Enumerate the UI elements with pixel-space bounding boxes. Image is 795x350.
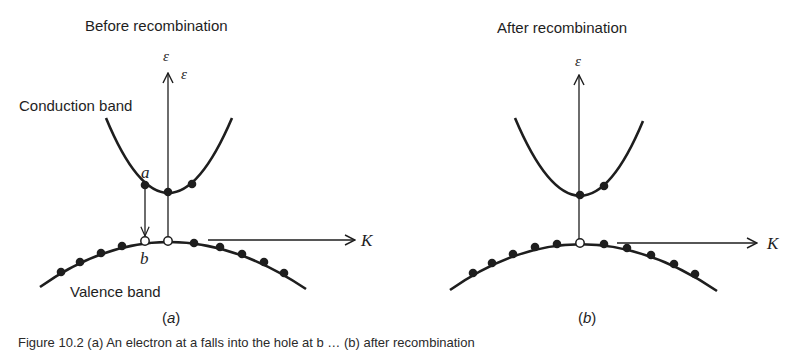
- energy-axis-label-a: ε: [163, 49, 169, 64]
- point-b-label: b: [140, 250, 149, 267]
- valence-band-curve-b: [450, 244, 717, 291]
- electron-dot: [260, 258, 269, 267]
- electron-dot: [238, 250, 247, 259]
- hole-circle: [141, 237, 149, 245]
- electron-dot: [188, 180, 197, 189]
- panel-b-title: After recombination: [497, 20, 627, 35]
- conduction-band-label: Conduction band: [19, 98, 132, 113]
- panel-a-title: Before recombination: [85, 18, 228, 33]
- panel-a-sublabel: (a): [162, 310, 180, 325]
- conduction-band-curve-a: [106, 118, 232, 193]
- electron-dot: [531, 243, 540, 252]
- valence-band-label: Valence band: [70, 284, 161, 299]
- energy-axis-label-b: ε: [575, 54, 581, 69]
- electron-dot: [647, 251, 656, 260]
- electron-dot: [76, 258, 85, 267]
- energy-axis-label-a-secondary: ε: [181, 67, 187, 82]
- electron-dot: [57, 268, 66, 277]
- electron-dot: [469, 269, 478, 278]
- electron-dot: [670, 260, 679, 269]
- k-axis-label-b: K: [767, 235, 778, 252]
- electron-dot: [576, 191, 585, 200]
- panel-b-sublabel: (b): [578, 310, 596, 325]
- electron-dot: [216, 243, 225, 252]
- electron-dot: [488, 259, 497, 268]
- electron-dot: [691, 270, 700, 279]
- panel-b: [450, 75, 757, 291]
- electron-dot: [553, 240, 562, 249]
- point-a-label: a: [141, 164, 150, 181]
- k-axis-label-a: K: [361, 232, 372, 249]
- electron-dot: [280, 269, 289, 278]
- electron-dot: [118, 242, 127, 251]
- hole-circle: [576, 239, 584, 247]
- electron-dot: [509, 250, 518, 259]
- figure-caption: Figure 10.2 (a) An electron at a falls i…: [18, 336, 475, 349]
- electron-dot: [97, 249, 106, 258]
- electron-dot: [623, 244, 632, 253]
- electron-dot: [600, 182, 609, 191]
- electron-dot: [600, 240, 609, 249]
- electron-dot: [164, 188, 173, 197]
- hole-circle: [164, 237, 172, 245]
- electron-dot: [190, 239, 199, 248]
